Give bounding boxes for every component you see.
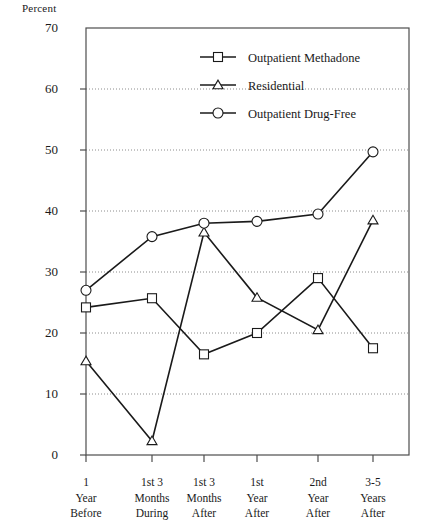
x-axis-ticks — [86, 455, 373, 462]
series-2-point-5-marker — [368, 147, 378, 157]
series-line-1 — [86, 220, 373, 441]
y-tick-label: 10 — [18, 386, 58, 402]
x-tick-label-line: Years — [338, 491, 408, 507]
legend-label-2: Outpatient Drug-Free — [248, 107, 356, 121]
gridlines — [86, 89, 409, 394]
series-0-point-0-marker — [82, 303, 91, 312]
y-axis-title: Percent — [22, 2, 56, 14]
y-tick-label: 50 — [18, 142, 58, 158]
x-tick-label: 3-5YearsAfter — [338, 475, 408, 522]
series-0-point-4-marker — [314, 274, 323, 283]
percent-line-chart: Percent 010203040506070 1YearBefore1st 3… — [0, 0, 440, 529]
x-tick-label: 1YearBefore — [51, 475, 121, 522]
y-tick-label: 70 — [18, 20, 58, 36]
legend-0-marker — [214, 53, 223, 62]
legend-2-marker — [213, 108, 223, 118]
x-tick-label-line: After — [222, 506, 292, 522]
series-0-point-3-marker — [253, 329, 262, 338]
series-2-point-3-marker — [252, 216, 262, 226]
series-2-point-4-marker — [313, 209, 323, 219]
data-series — [81, 147, 378, 445]
x-tick-label-line: Year — [51, 491, 121, 507]
series-2-point-2-marker — [199, 218, 209, 228]
series-line-2 — [86, 152, 373, 290]
x-tick-label-line: 3-5 — [338, 475, 408, 491]
x-tick-label-line: Year — [222, 491, 292, 507]
x-tick-label: 1stYearAfter — [222, 475, 292, 522]
chart-legend: Outpatient MethadoneResidentialOutpatien… — [200, 51, 361, 121]
y-axis-ticks — [80, 89, 86, 455]
series-0-point-1-marker — [148, 294, 157, 303]
series-0-point-5-marker — [369, 344, 378, 353]
y-tick-label: 20 — [18, 325, 58, 341]
legend-label-0: Outpatient Methadone — [248, 51, 361, 65]
series-1-point-0-marker — [81, 356, 91, 365]
series-1-point-5-marker — [368, 215, 378, 224]
series-2-point-0-marker — [81, 285, 91, 295]
legend-label-1: Residential — [248, 79, 305, 93]
series-line-0 — [86, 278, 373, 354]
x-tick-label-line: 1 — [51, 475, 121, 491]
series-0-point-2-marker — [200, 350, 209, 359]
series-1-point-4-marker — [313, 325, 323, 334]
x-tick-label-line: After — [338, 506, 408, 522]
series-2-point-1-marker — [147, 232, 157, 242]
y-tick-label: 0 — [18, 447, 58, 463]
y-tick-label: 30 — [18, 264, 58, 280]
x-tick-label-line: 1st — [222, 475, 292, 491]
y-tick-label: 40 — [18, 203, 58, 219]
x-tick-label-line: Before — [51, 506, 121, 522]
plot-area: Outpatient MethadoneResidentialOutpatien… — [0, 0, 440, 529]
y-tick-label: 60 — [18, 81, 58, 97]
